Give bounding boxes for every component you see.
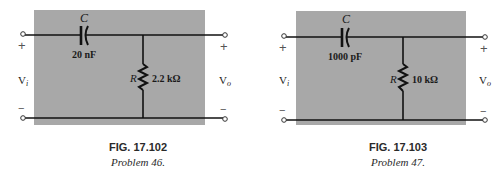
- output-plus-sign: +: [480, 41, 488, 56]
- capacitor-value: 20 nF: [72, 49, 96, 60]
- output-plus-sign: +: [220, 39, 228, 54]
- output-terminal-top: [483, 35, 488, 40]
- input-plus-sign: +: [18, 38, 26, 53]
- output-minus-sign: −: [480, 105, 486, 117]
- input-terminal-bottom: [21, 116, 26, 121]
- output-voltage-label: Vo: [479, 74, 491, 88]
- input-terminal-top: [282, 34, 287, 39]
- figure-problem: Problem 46.: [110, 156, 165, 168]
- input-terminal-top: [21, 32, 26, 37]
- input-minus-sign: −: [279, 104, 285, 116]
- output-terminal-bottom: [223, 117, 228, 122]
- input-plus-sign: +: [279, 40, 287, 55]
- figure-problem: Problem 47.: [370, 156, 425, 168]
- input-terminal-bottom: [282, 118, 287, 123]
- figure-17-103: C 1000 pF R 10 kΩ + + − − Vi Vo FIG. 17.…: [279, 11, 491, 168]
- output-minus-sign: −: [220, 103, 226, 115]
- capacitor-value: 1000 pF: [328, 51, 362, 62]
- resistor-value: 2.2 kΩ: [152, 73, 181, 84]
- figure-number: FIG. 17.103: [369, 141, 427, 153]
- resistor-label: R: [129, 72, 137, 84]
- output-voltage-label: Vo: [219, 74, 231, 88]
- output-terminal-top: [223, 33, 228, 38]
- input-voltage-label: Vi: [18, 74, 28, 88]
- circuit-panel: [296, 11, 466, 125]
- resistor-value: 10 kΩ: [412, 74, 438, 85]
- output-terminal-bottom: [483, 118, 488, 123]
- capacitor-label: C: [342, 12, 351, 26]
- capacitor-label: C: [80, 11, 89, 25]
- figure-number: FIG. 17.102: [109, 141, 167, 153]
- input-voltage-label: Vi: [279, 74, 289, 88]
- circuit-panel: [34, 10, 205, 125]
- input-minus-sign: −: [18, 102, 24, 114]
- resistor-label: R: [389, 73, 397, 85]
- figure-17-102: C 20 nF R 2.2 kΩ + + − − Vi Vo FIG. 17.1…: [18, 10, 231, 168]
